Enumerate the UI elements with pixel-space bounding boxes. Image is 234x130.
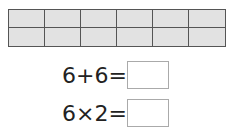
equation-expression: 6+6= <box>62 63 126 88</box>
grid-cell <box>45 10 81 28</box>
grid-cell <box>81 10 117 28</box>
grid-cell <box>81 28 117 46</box>
grid-cell <box>153 10 189 28</box>
grid-cell <box>45 28 81 46</box>
answer-box-addition[interactable] <box>127 61 169 89</box>
grid-cell <box>117 28 153 46</box>
grid-cell <box>189 10 225 28</box>
equation-expression: 6×2= <box>62 101 126 126</box>
grid-cell <box>153 28 189 46</box>
multiplication-equation: 6×2= <box>62 98 169 128</box>
grid-cell <box>9 28 45 46</box>
grid-cell <box>117 10 153 28</box>
answer-box-multiplication[interactable] <box>127 99 169 127</box>
grid-cell <box>189 28 225 46</box>
addition-equation: 6+6= <box>62 60 169 90</box>
counting-grid <box>8 9 226 47</box>
grid-cell <box>9 10 45 28</box>
